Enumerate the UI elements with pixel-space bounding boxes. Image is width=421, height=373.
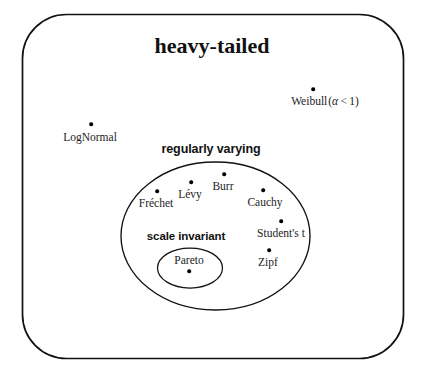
scale-invariant-title: scale invariant <box>147 230 225 242</box>
lognormal-dot <box>89 122 93 126</box>
weibull-label: Weibull (α < 1) <box>291 95 359 107</box>
weibull-relation: < <box>340 95 347 107</box>
cauchy-name: Cauchy <box>247 196 282 208</box>
regularly-varying-title: regularly varying <box>161 143 260 156</box>
students-t-name: Student's t <box>257 227 305 239</box>
regularly-varying-title-text: regularly varying <box>161 142 260 156</box>
pareto-name: Pareto <box>174 254 203 266</box>
weibull-qualifier: (α < 1) <box>327 95 359 107</box>
weibull-name: Weibull <box>291 95 327 107</box>
frechet-dot <box>155 189 159 193</box>
lognormal-label: LogNormal <box>63 131 117 143</box>
scale-invariant-title-text: scale invariant <box>147 230 225 242</box>
burr-label: Burr <box>212 180 233 192</box>
burr-dot <box>222 172 226 176</box>
students-t-dot <box>279 219 283 223</box>
cauchy-label: Cauchy <box>247 196 282 208</box>
pareto-label: Pareto <box>174 254 203 266</box>
set-diagram: heavy-tailed Weibull (α < 1) LogNormal r… <box>0 0 421 373</box>
heavy-tailed-title: heavy-tailed <box>155 34 270 57</box>
zipf-name: Zipf <box>258 256 278 268</box>
burr-name: Burr <box>212 180 233 192</box>
frechet-label: Fréchet <box>139 197 173 209</box>
zipf-label: Zipf <box>258 256 278 268</box>
pareto-dot <box>187 269 191 273</box>
weibull-bound: 1 <box>349 95 355 107</box>
lognormal-name: LogNormal <box>63 131 117 143</box>
cauchy-dot <box>261 188 265 192</box>
students-t-label: Student's t <box>257 227 305 239</box>
heavy-tailed-title-text: heavy-tailed <box>155 33 270 58</box>
frechet-name: Fréchet <box>139 197 173 209</box>
weibull-dot <box>311 87 315 91</box>
alpha-symbol: α <box>332 95 338 107</box>
levy-name: Lévy <box>178 188 202 200</box>
zipf-dot <box>267 248 271 252</box>
levy-label: Lévy <box>178 188 202 200</box>
levy-dot <box>189 180 193 184</box>
